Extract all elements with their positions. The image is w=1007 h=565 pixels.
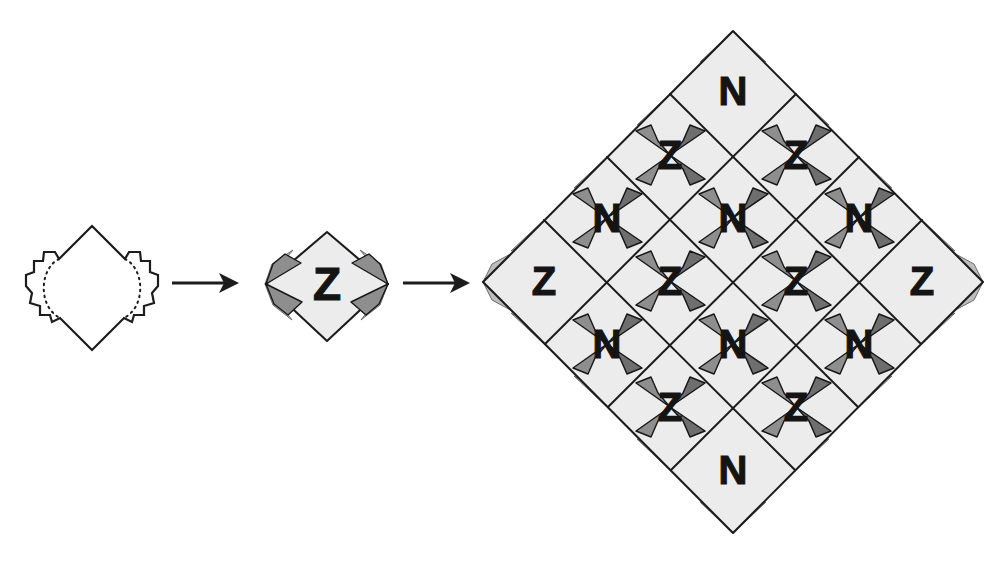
tiling-diagram: Z [0,0,1007,565]
tile-letter: Z [784,259,808,303]
tile-letter: N [719,448,748,492]
arrow-blob-to-tile [172,273,239,293]
tile-letter: N [719,196,748,240]
stage-blob-group [26,226,158,350]
stage-single-tile-group: Z [265,232,388,341]
tile-letter: N [593,322,622,366]
tile-letter: Z [784,133,808,177]
tile-letter: N [719,322,748,366]
single-tile-letter: Z [313,258,341,310]
tile-letter: N [719,69,748,113]
tile-letter: Z [910,259,934,303]
tile-letter: N [845,196,874,240]
figure-root: Z [0,0,1007,565]
tile-letter: N [593,196,622,240]
arrow-tile-to-tiling [403,273,470,293]
blob-outline [26,226,158,350]
tile-letter: N [845,322,874,366]
tile-letter: Z [532,259,556,303]
tile-letter: Z [784,385,808,429]
tile-letter: Z [658,133,682,177]
tile-letter: Z [658,385,682,429]
stage-tiling-group: N Z Z N N N Z Z Z Z N N N Z Z N [483,31,983,533]
tile-letter: Z [658,259,682,303]
